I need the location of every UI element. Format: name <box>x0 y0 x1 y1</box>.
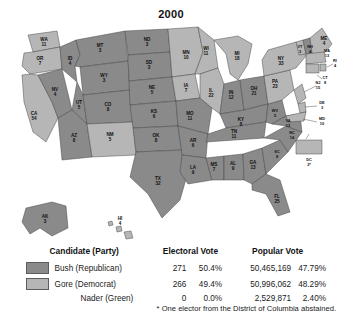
state-OK <box>133 126 182 152</box>
popular-pct-gore: 48.29% <box>291 276 326 292</box>
state-TX <box>130 150 188 218</box>
svg-text:2*: 2* <box>307 162 311 167</box>
state-RI <box>320 64 326 71</box>
table-row: Bush (Republican) 271 50.4% 50,465,169 4… <box>26 260 326 276</box>
us-map-svg: WA11 OR7 CA54 NV4 ID4 MT3 WY3 UT5 CO8 AZ… <box>0 22 342 244</box>
leader-line-dc <box>306 134 309 139</box>
electoral-votes-bush: 271 <box>163 260 187 276</box>
state-KS <box>130 101 178 128</box>
color-swatch-bush <box>26 262 49 274</box>
leader-line-ri <box>327 64 333 67</box>
svg-text:15: 15 <box>316 85 321 90</box>
svg-text:8: 8 <box>324 80 327 85</box>
state-NJ <box>294 84 306 104</box>
state-HI-3 <box>124 231 133 239</box>
state-CO <box>83 90 133 124</box>
svg-text:4: 4 <box>334 63 337 68</box>
svg-text:3: 3 <box>321 105 324 110</box>
leader-line-nj <box>304 86 316 92</box>
svg-text:DC: DC <box>306 157 312 162</box>
popular-votes-gore: 50,996,062 <box>238 276 291 292</box>
page-title: 2000 <box>0 8 342 20</box>
state-IA <box>172 74 200 101</box>
results-table: Candidate (Party) Electoral Vote Popular… <box>26 246 326 305</box>
svg-text:CT: CT <box>322 75 328 80</box>
state-ME <box>310 28 332 56</box>
swatch-cell-gore <box>26 276 50 292</box>
candidate-header: Candidate (Party) <box>50 246 163 260</box>
popular-pct-bush: 47.79% <box>291 260 326 276</box>
table-row: Gore (Democrat) 266 49.4% 50,996,062 48.… <box>26 276 326 292</box>
popular-vote-header: Popular Vote <box>238 246 326 260</box>
electoral-map: WA11 OR7 CA54 NV4 ID4 MT3 WY3 UT5 CO8 AZ… <box>0 22 342 244</box>
state-AK <box>22 202 68 236</box>
state-HI <box>108 221 113 226</box>
state-SD <box>128 52 172 81</box>
electoral-vote-header: Electoral Vote <box>163 246 238 260</box>
svg-text:10: 10 <box>320 121 324 126</box>
svg-text:HI: HI <box>118 216 123 221</box>
popular-votes-bush: 50,465,169 <box>238 260 291 276</box>
leader-line-md <box>303 119 317 122</box>
swatch-cell-bush <box>26 260 50 276</box>
svg-text:RI: RI <box>333 58 337 63</box>
color-swatch-gore <box>26 278 49 290</box>
state-HI-2 <box>116 226 122 232</box>
svg-text:MD: MD <box>319 116 325 121</box>
svg-text:DE: DE <box>319 100 325 105</box>
state-MT <box>75 31 128 67</box>
state-MA <box>306 52 326 64</box>
state-FL <box>252 174 290 216</box>
leader-line-de <box>305 106 317 107</box>
table-header-row: Candidate (Party) Electoral Vote Popular… <box>26 246 326 260</box>
electoral-votes-gore: 266 <box>163 276 187 292</box>
state-AL <box>224 154 244 180</box>
svg-text:4: 4 <box>119 221 122 226</box>
state-DC <box>296 140 322 154</box>
svg-text:NJ: NJ <box>316 80 321 85</box>
state-CT <box>306 64 319 73</box>
electoral-pct-gore: 49.4% <box>186 276 238 292</box>
candidate-name-gore: Gore (Democrat) <box>50 276 163 292</box>
state-DE <box>298 102 306 113</box>
results-legend: Candidate (Party) Electoral Vote Popular… <box>26 246 326 305</box>
state-ND <box>125 29 170 55</box>
footnote: * One elector from the District of Colum… <box>0 304 336 313</box>
state-NM <box>87 122 136 157</box>
swatch-header <box>26 246 50 260</box>
leader-line-ct <box>317 75 322 79</box>
candidate-name-bush: Bush (Republican) <box>50 260 163 276</box>
state-MD <box>286 112 306 122</box>
state-NE <box>129 77 176 105</box>
state-OR <box>22 47 62 74</box>
svg-text:13: 13 <box>325 53 330 58</box>
state-WY <box>80 61 130 95</box>
electoral-pct-bush: 50.4% <box>186 260 238 276</box>
